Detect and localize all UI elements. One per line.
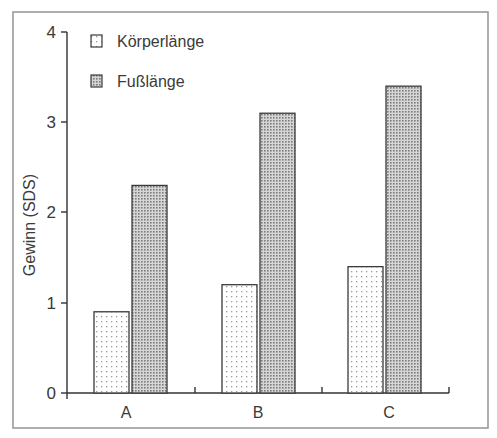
y-axis-title: Gewinn (SDS) (21, 174, 38, 276)
y-tick-3: 3 (47, 113, 56, 132)
y-tick-2: 2 (47, 203, 56, 222)
legend-swatch-fusslaenge (91, 75, 102, 87)
category-label-c: C (383, 404, 395, 421)
legend-swatch-koerperlaenge (91, 35, 102, 47)
bar-c-koerperlaenge (348, 267, 383, 393)
legend-label-fusslaenge: Fußlänge (117, 73, 185, 90)
category-label-a: A (121, 404, 132, 421)
legend: Körperlänge Fußlänge (91, 33, 204, 90)
y-tick-labels: 0 1 2 3 4 (47, 23, 56, 403)
y-axis (61, 32, 67, 399)
legend-label-koerperlaenge: Körperlänge (117, 33, 204, 50)
y-tick-4: 4 (47, 23, 56, 42)
bar-b-fusslaenge (260, 113, 295, 393)
bars-group (94, 86, 421, 393)
category-label-b: B (253, 404, 264, 421)
y-tick-0: 0 (47, 384, 56, 403)
bar-a-fusslaenge (132, 185, 167, 393)
bar-a-koerperlaenge (94, 312, 129, 393)
bar-b-koerperlaenge (222, 285, 257, 393)
x-tick-labels: A B C (121, 404, 395, 421)
bar-c-fusslaenge (386, 86, 421, 393)
bar-chart: Gewinn (SDS) 0 1 2 3 4 A B C Körperlänge… (0, 0, 497, 438)
y-tick-1: 1 (47, 294, 56, 313)
